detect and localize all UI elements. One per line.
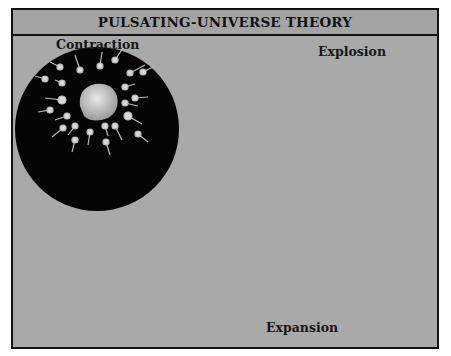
contraction-stage xyxy=(15,45,179,211)
label-explosion: Explosion xyxy=(318,44,386,59)
label-contraction: Contraction xyxy=(56,37,139,52)
label-expansion: Expansion xyxy=(266,320,338,335)
